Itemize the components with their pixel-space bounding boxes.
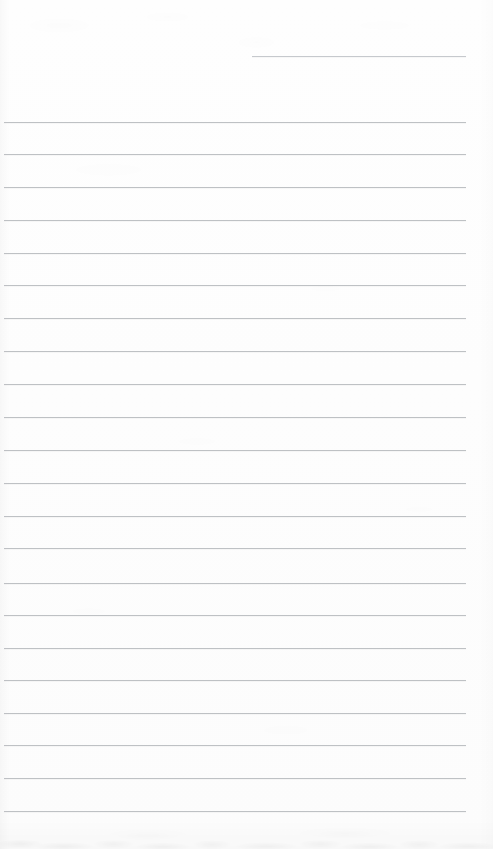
scanned-page <box>0 0 493 849</box>
rule-line <box>4 680 466 681</box>
rule-line <box>4 648 466 649</box>
rule-line <box>4 745 466 746</box>
rule-line <box>4 778 466 779</box>
rule-line <box>4 384 466 385</box>
rule-line <box>4 253 466 254</box>
rule-line <box>4 548 466 549</box>
paper-surface <box>0 0 493 849</box>
rule-line <box>4 285 466 286</box>
rule-line <box>4 615 466 616</box>
rule-line <box>4 516 466 517</box>
rule-line <box>4 583 466 584</box>
rule-line <box>4 220 466 221</box>
rule-line <box>4 811 466 812</box>
rule-line <box>4 122 466 123</box>
rule-line <box>4 450 466 451</box>
rule-line <box>4 154 466 155</box>
rule-line <box>4 713 466 714</box>
rule-line <box>4 483 466 484</box>
rule-line <box>4 318 466 319</box>
rule-line <box>4 417 466 418</box>
rule-line <box>4 187 466 188</box>
rule-line <box>4 351 466 352</box>
partial-rule-line <box>252 56 466 57</box>
